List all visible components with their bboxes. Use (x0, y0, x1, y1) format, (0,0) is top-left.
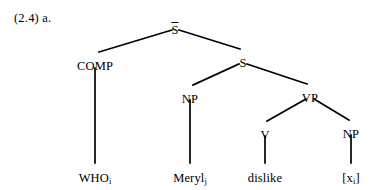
tree-terminal-meryl: Merylj (173, 172, 207, 186)
tree-node-np1: NP (182, 93, 198, 106)
terminal-subscript: i (109, 176, 111, 186)
tree-edge-s-to-np1 (193, 64, 239, 85)
tree-edge-sbar-to-comp (99, 30, 172, 52)
tree-edge-s-to-vp (247, 64, 307, 84)
syntax-tree-figure: (2.4) a. SCOMPSNPVPVNPWHOiMeryljdislike[… (0, 0, 377, 190)
terminal-suffix: ] (355, 171, 359, 185)
tree-node-vp: VP (302, 92, 318, 105)
tree-node-v: V (260, 129, 269, 142)
terminal-text: [x (342, 171, 353, 185)
tree-edge-vp-to-v (267, 99, 306, 121)
tree-terminal-dislike: dislike (248, 172, 282, 185)
tree-edge-sbar-to-s (179, 30, 240, 49)
tree-node-sbar: S (171, 22, 178, 37)
terminal-text: Meryl (173, 171, 204, 185)
tree-node-comp: COMP (77, 60, 113, 73)
tree-terminal-who: WHOi (79, 172, 112, 186)
terminal-text: dislike (248, 171, 282, 185)
terminal-subscript: j (204, 176, 206, 186)
tree-node-s: S (239, 57, 246, 70)
tree-terminal-trace: [xi] (342, 172, 359, 186)
tree-node-np2: NP (343, 128, 359, 141)
terminal-text: WHO (79, 171, 109, 185)
tree-edge-vp-to-np2 (314, 99, 349, 120)
